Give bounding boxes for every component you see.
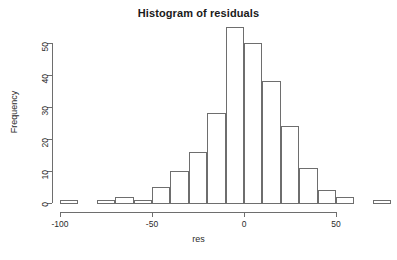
histogram-bar xyxy=(152,187,170,204)
x-axis-tick xyxy=(336,212,337,217)
x-axis-line xyxy=(60,212,336,213)
x-axis-tick xyxy=(152,212,153,217)
y-axis-line xyxy=(52,43,53,203)
chart-title: Histogram of residuals xyxy=(0,7,397,19)
histogram-bar xyxy=(134,200,152,204)
y-axis-tick-label: 50 xyxy=(40,42,50,82)
histogram-bar xyxy=(336,197,354,204)
histogram-bar xyxy=(60,200,78,204)
x-axis-tick-label: -50 xyxy=(127,219,177,229)
histogram-bar xyxy=(373,200,391,204)
x-axis-tick-label: 50 xyxy=(311,219,361,229)
histogram-bar xyxy=(170,171,188,204)
histogram-plot: Histogram of residuals Frequency res 010… xyxy=(0,0,397,260)
x-axis-tick-label: 0 xyxy=(219,219,269,229)
histogram-bar xyxy=(226,27,244,204)
histogram-bar xyxy=(299,168,317,204)
histogram-bar xyxy=(244,43,262,204)
x-axis-tick xyxy=(60,212,61,217)
x-axis-tick xyxy=(244,212,245,217)
histogram-bar xyxy=(262,81,280,204)
histogram-bar xyxy=(281,126,299,204)
x-axis-tick-label: -100 xyxy=(35,219,85,229)
histogram-bar xyxy=(97,200,115,204)
histogram-bar xyxy=(189,152,207,204)
histogram-bar xyxy=(318,190,336,204)
x-axis-label: res xyxy=(0,234,397,244)
y-axis-label: Frequency xyxy=(9,72,19,152)
histogram-bar xyxy=(207,113,225,204)
histogram-bar xyxy=(115,197,133,204)
